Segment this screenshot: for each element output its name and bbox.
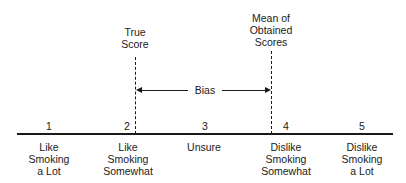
scale-label-3: Unsure	[174, 141, 234, 153]
true-score-label-line1: True	[110, 26, 160, 38]
mean-dashed-line	[271, 51, 272, 134]
scale-label-5-line2: Smoking	[332, 153, 392, 165]
scale-label-2: Like Smoking Somewhat	[96, 141, 160, 177]
scale-number-2: 2	[117, 120, 137, 132]
scale-label-3-line1: Unsure	[174, 141, 234, 153]
scale-label-4-line3: Somewhat	[254, 165, 318, 177]
scale-label-2-line1: Like	[96, 141, 160, 153]
scale-label-1-line1: Like	[19, 141, 79, 153]
scale-label-4-line2: Smoking	[254, 153, 318, 165]
bias-label: Bias	[190, 84, 220, 96]
bias-arrowhead-right-icon	[265, 87, 271, 93]
scale-label-5-line3: a Lot	[332, 165, 392, 177]
bias-arrow-line-right	[222, 90, 267, 91]
scale-label-5-line1: Dislike	[332, 141, 392, 153]
mean-label-line2: Obtained	[241, 24, 301, 36]
scale-label-5: Dislike Smoking a Lot	[332, 141, 392, 177]
true-score-label-line2: Score	[110, 38, 160, 50]
scale-label-4: Dislike Smoking Somewhat	[254, 141, 318, 177]
scale-label-2-line3: Somewhat	[96, 165, 160, 177]
scale-number-5: 5	[352, 120, 372, 132]
mean-label-line1: Mean of	[241, 12, 301, 24]
scale-number-1: 1	[39, 120, 59, 132]
true-score-label: True Score	[110, 26, 160, 50]
mean-label-line3: Scores	[241, 36, 301, 48]
scale-number-4: 4	[276, 120, 296, 132]
scale-label-1: Like Smoking a Lot	[19, 141, 79, 177]
mean-obtained-label: Mean of Obtained Scores	[241, 12, 301, 48]
rating-scale-line	[17, 133, 393, 135]
bias-arrow-line-left	[140, 90, 188, 91]
scale-label-1-line2: Smoking	[19, 153, 79, 165]
scale-number-3: 3	[195, 120, 215, 132]
scale-label-1-line3: a Lot	[19, 165, 79, 177]
scale-label-2-line2: Smoking	[96, 153, 160, 165]
scale-label-4-line1: Dislike	[254, 141, 318, 153]
